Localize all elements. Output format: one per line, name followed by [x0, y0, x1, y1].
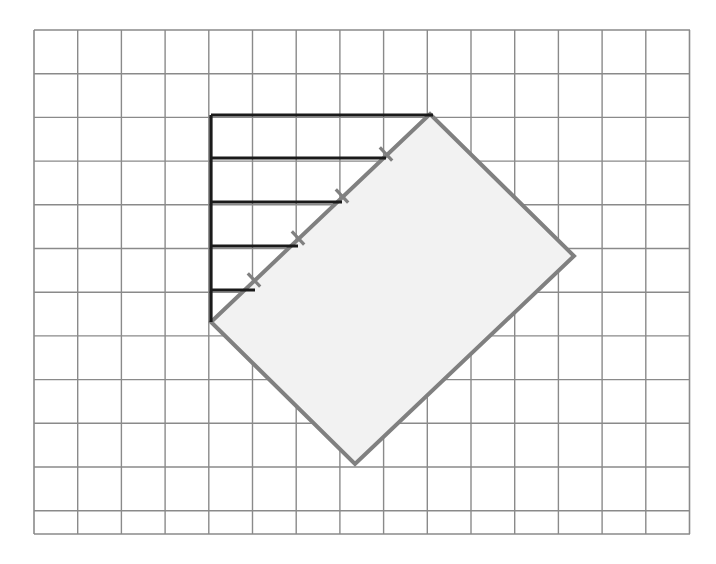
geometry-diagram — [0, 0, 716, 564]
figure-canvas — [0, 0, 716, 564]
shaded-rectangle-layer — [211, 114, 574, 464]
rotated-rectangle — [211, 114, 574, 464]
